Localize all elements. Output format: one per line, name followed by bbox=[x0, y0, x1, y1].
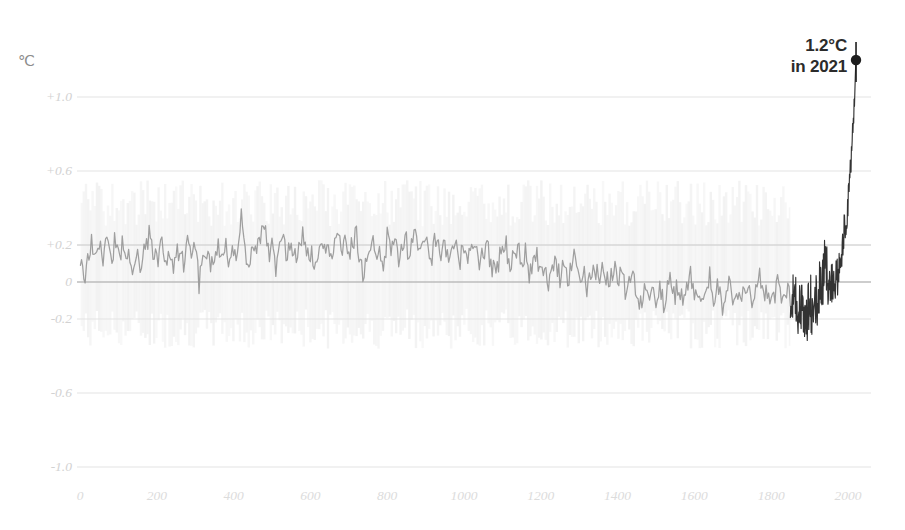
x-axis-tick-2000: 2000 bbox=[834, 488, 861, 504]
x-axis-tick-1000: 1000 bbox=[450, 488, 477, 504]
y-axis-tick-0: 0 bbox=[0, 274, 72, 290]
x-axis-tick-1200: 1200 bbox=[527, 488, 554, 504]
temperature-anomaly-chart: ℃ 1.2°C in 2021 +1.0+0.6+0.20-0.2-0.6-1.… bbox=[0, 0, 905, 530]
uncertainty-band-layer bbox=[80, 180, 791, 348]
y-axis-tick-06: +0.6 bbox=[0, 163, 72, 179]
x-axis-tick-600: 600 bbox=[300, 488, 320, 504]
y-axis-tick-neg02: -0.2 bbox=[0, 311, 72, 327]
x-axis-tick-400: 400 bbox=[223, 488, 243, 504]
y-axis-tick-02: +0.2 bbox=[0, 237, 72, 253]
x-axis-tick-1800: 1800 bbox=[758, 488, 785, 504]
x-axis-tick-800: 800 bbox=[377, 488, 397, 504]
marker-layer bbox=[851, 42, 861, 82]
x-axis-tick-1400: 1400 bbox=[604, 488, 631, 504]
x-axis-tick-0: 0 bbox=[77, 488, 84, 504]
y-axis-tick-neg06: -0.6 bbox=[0, 385, 72, 401]
x-axis-tick-200: 200 bbox=[147, 488, 167, 504]
y-axis-tick-10: +1.0 bbox=[0, 89, 72, 105]
x-axis-tick-1600: 1600 bbox=[681, 488, 708, 504]
chart-canvas bbox=[0, 0, 905, 530]
y-axis-tick-neg10: -1.0 bbox=[0, 459, 72, 475]
gridlines-layer bbox=[77, 97, 871, 467]
